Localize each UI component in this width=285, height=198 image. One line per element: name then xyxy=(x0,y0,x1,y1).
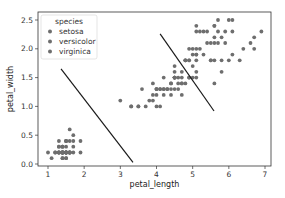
y-axis-ticks: 0.00.51.01.52.02.5 xyxy=(21,16,38,169)
data-point xyxy=(205,30,209,34)
data-point xyxy=(64,151,68,155)
data-point xyxy=(194,70,198,74)
data-point xyxy=(176,82,180,86)
legend-marker-setosa xyxy=(48,30,52,34)
data-point xyxy=(151,93,155,97)
data-point xyxy=(147,99,151,103)
data-point xyxy=(194,76,198,80)
data-point xyxy=(180,93,184,97)
data-point xyxy=(151,82,155,86)
data-point xyxy=(241,47,245,51)
data-point xyxy=(252,47,256,51)
data-point xyxy=(61,156,65,160)
data-point xyxy=(216,41,220,45)
data-point xyxy=(213,24,217,28)
data-point xyxy=(194,30,198,34)
data-point xyxy=(191,47,195,51)
data-point xyxy=(57,145,61,149)
x-tick-label: 5 xyxy=(190,170,195,179)
legend-title: species xyxy=(55,17,83,26)
data-point xyxy=(173,76,177,80)
data-point xyxy=(137,105,141,109)
data-point xyxy=(162,76,166,80)
data-point xyxy=(71,151,75,155)
data-point xyxy=(68,139,72,143)
data-point xyxy=(155,105,159,109)
data-point xyxy=(64,139,68,143)
data-point xyxy=(61,145,65,149)
data-point xyxy=(227,58,231,62)
scatter-chart: 1234567 0.00.51.01.52.02.5 petal_length … xyxy=(0,0,285,198)
data-point xyxy=(165,87,169,91)
data-point xyxy=(213,41,217,45)
data-point xyxy=(184,82,188,86)
data-point xyxy=(162,87,166,91)
data-point xyxy=(202,30,206,34)
data-point xyxy=(260,30,264,34)
data-point xyxy=(118,99,122,103)
data-point xyxy=(169,82,173,86)
data-point xyxy=(57,139,61,143)
data-point xyxy=(249,41,253,45)
data-point xyxy=(79,151,83,155)
data-point xyxy=(50,156,54,160)
data-point xyxy=(198,47,202,51)
data-point xyxy=(173,64,177,68)
data-point xyxy=(176,76,180,80)
data-point xyxy=(180,76,184,80)
x-tick-label: 7 xyxy=(263,170,268,179)
data-point xyxy=(252,35,256,39)
data-point xyxy=(194,24,198,28)
data-point xyxy=(64,156,68,160)
data-point xyxy=(220,70,224,74)
data-point xyxy=(162,93,166,97)
data-point xyxy=(194,53,198,57)
data-point xyxy=(187,58,191,62)
y-tick-label: 2.5 xyxy=(21,16,33,25)
y-tick-label: 0.0 xyxy=(21,160,33,169)
y-tick-label: 1.5 xyxy=(21,73,33,82)
data-point xyxy=(184,58,188,62)
data-point xyxy=(129,105,133,109)
data-point xyxy=(238,58,242,62)
data-point xyxy=(194,58,198,62)
data-point xyxy=(209,58,213,62)
y-tick-label: 0.5 xyxy=(21,131,33,140)
data-point xyxy=(158,87,162,91)
data-point xyxy=(231,53,235,57)
x-tick-label: 6 xyxy=(226,170,231,179)
x-tick-label: 3 xyxy=(118,170,123,179)
data-point xyxy=(68,127,72,131)
data-point xyxy=(187,47,191,51)
data-point xyxy=(191,64,195,68)
x-tick-label: 1 xyxy=(46,170,51,179)
x-axis-ticks: 1234567 xyxy=(46,166,268,179)
data-point xyxy=(223,30,227,34)
legend-label-setosa: setosa xyxy=(59,27,84,36)
legend-label-virginica: virginica xyxy=(59,47,91,56)
data-point xyxy=(213,58,217,62)
x-axis-label: petal_length xyxy=(130,180,180,189)
legend-marker-virginica xyxy=(48,50,52,54)
data-point xyxy=(216,30,220,34)
data-point xyxy=(71,139,75,143)
data-point xyxy=(173,87,177,91)
data-point xyxy=(220,35,224,39)
data-point xyxy=(205,41,209,45)
data-point xyxy=(223,41,227,45)
data-point xyxy=(61,151,65,155)
data-point xyxy=(176,87,180,91)
data-point xyxy=(71,145,75,149)
data-point xyxy=(180,82,184,86)
data-point xyxy=(46,151,50,155)
data-point xyxy=(227,18,231,22)
data-point xyxy=(191,53,195,57)
x-tick-label: 4 xyxy=(154,170,159,179)
data-point xyxy=(231,18,235,22)
y-tick-label: 2.0 xyxy=(21,44,33,53)
data-point xyxy=(202,53,206,57)
data-point xyxy=(216,18,220,22)
data-point xyxy=(155,93,159,97)
data-point xyxy=(151,99,155,103)
data-point xyxy=(173,70,177,74)
